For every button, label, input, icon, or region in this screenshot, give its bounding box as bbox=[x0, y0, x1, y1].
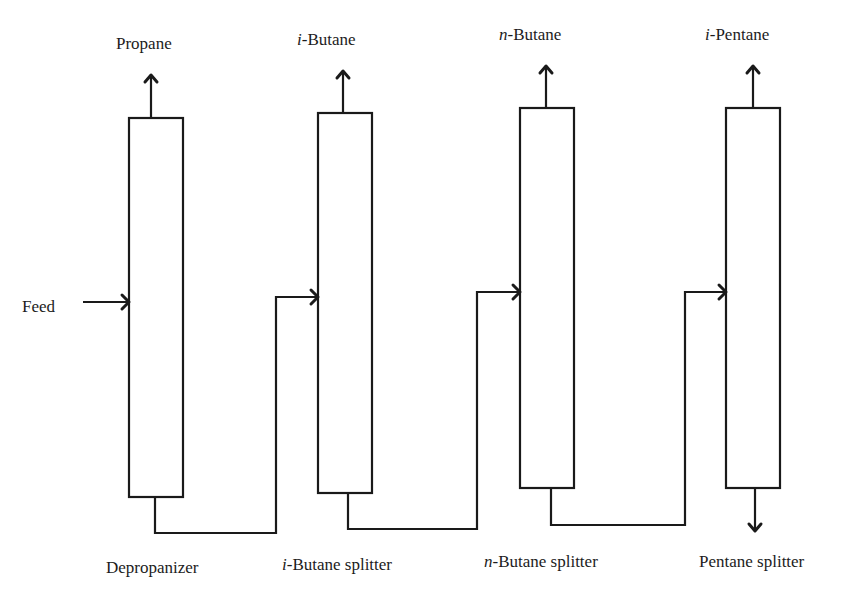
column-pentane-splitter bbox=[726, 108, 780, 488]
label-n-butane-text: Butane bbox=[513, 25, 561, 44]
label-feed: Feed bbox=[22, 297, 55, 317]
label-i-butane-splitter-text: Butane splitter bbox=[292, 555, 392, 574]
diagram-canvas bbox=[0, 0, 846, 600]
column-n-butane-splitter bbox=[520, 108, 574, 488]
connector-i-butane-to-n-butane bbox=[348, 292, 520, 529]
connector-n-butane-to-pentane bbox=[551, 292, 726, 525]
label-i-pentane: i-Pentane bbox=[705, 25, 769, 45]
column-depropanizer bbox=[129, 118, 183, 497]
label-i-butane-text: Butane bbox=[307, 30, 355, 49]
column-i-butane-splitter bbox=[318, 113, 372, 493]
label-pentane-splitter: Pentane splitter bbox=[699, 552, 804, 572]
label-i-butane-prefix: i bbox=[297, 30, 302, 49]
distillation-train-diagram: Propane i-Butane n-Butane i-Pentane Feed… bbox=[0, 0, 846, 600]
label-n-butane-splitter-text: Butane splitter bbox=[498, 552, 598, 571]
label-i-pentane-text: Pentane bbox=[715, 25, 769, 44]
label-i-butane-splitter: i-Butane splitter bbox=[282, 555, 392, 575]
label-n-butane-splitter: n-Butane splitter bbox=[484, 552, 598, 572]
label-i-butane: i-Butane bbox=[297, 30, 356, 50]
label-n-butane: n-Butane bbox=[499, 25, 561, 45]
label-i-butane-splitter-prefix: i bbox=[282, 555, 287, 574]
label-n-butane-prefix: n bbox=[499, 25, 508, 44]
label-depropanizer: Depropanizer bbox=[106, 558, 199, 578]
label-i-pentane-prefix: i bbox=[705, 25, 710, 44]
label-n-butane-splitter-prefix: n bbox=[484, 552, 493, 571]
label-propane: Propane bbox=[116, 34, 172, 54]
